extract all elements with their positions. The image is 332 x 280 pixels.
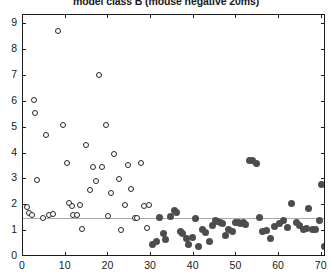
data-point-marker (90, 164, 96, 170)
reference-line (23, 218, 324, 219)
data-point-marker (305, 205, 312, 212)
data-point-marker (111, 151, 117, 157)
data-point-marker (146, 202, 152, 208)
data-point-marker (116, 176, 122, 182)
y-axis-tick-right (321, 101, 325, 102)
data-point-marker (162, 236, 169, 243)
data-point-marker (189, 234, 196, 241)
data-point-marker (83, 142, 89, 148)
x-axis-tick (65, 252, 66, 256)
data-point-marker (222, 232, 229, 239)
data-point-marker (69, 203, 75, 209)
y-axis-tick-right (321, 204, 325, 205)
y-axis-tick (22, 101, 26, 102)
y-axis-tick (22, 153, 26, 154)
x-axis-tick-label: 20 (92, 259, 122, 271)
data-point-marker (318, 181, 325, 188)
x-axis-tick-label: 10 (50, 259, 80, 271)
scatter-chart-figure: model class B (mouse negative 20ms) 0102… (0, 0, 332, 280)
data-point-marker (43, 132, 49, 138)
y-axis-tick-label: 3 (1, 171, 17, 183)
y-axis-tick (22, 23, 26, 24)
data-point-marker (87, 187, 93, 193)
data-point-marker (206, 238, 213, 245)
x-axis-tick (193, 252, 194, 256)
data-point-marker (267, 235, 274, 242)
data-point-marker (284, 224, 291, 231)
data-point-marker (256, 214, 263, 221)
data-point-marker (253, 160, 260, 167)
y-axis-tick (22, 230, 26, 231)
x-axis-tick-top (65, 14, 66, 18)
x-axis-tick (235, 252, 236, 256)
x-axis-tick-top (235, 14, 236, 18)
y-axis-tick-right (321, 49, 325, 50)
x-axis-tick (150, 252, 151, 256)
data-point-marker (108, 190, 114, 196)
x-axis-tick-top (193, 14, 194, 18)
y-axis-tick-label: 9 (1, 16, 17, 28)
y-axis-tick-right (321, 127, 325, 128)
x-axis-tick-top (107, 14, 108, 18)
x-axis-tick-top (150, 14, 151, 18)
data-point-marker (99, 164, 105, 170)
y-axis-tick-label: 7 (1, 68, 17, 80)
data-point-marker (185, 241, 192, 248)
data-point-marker (138, 160, 144, 166)
data-point-marker (125, 162, 131, 168)
data-point-marker (79, 226, 85, 232)
x-axis-tick (278, 252, 279, 256)
data-point-marker (96, 72, 102, 78)
y-axis-tick-right (321, 153, 325, 154)
y-axis-tick-label: 0 (1, 249, 17, 261)
y-axis-tick (22, 49, 26, 50)
data-point-marker (156, 214, 163, 221)
x-axis-tick (107, 252, 108, 256)
x-axis-tick-label: 70 (306, 259, 332, 271)
y-axis-tick (22, 75, 26, 76)
x-axis-tick-label: 60 (263, 259, 293, 271)
data-point-marker (312, 226, 319, 233)
y-axis-tick-label: 1 (1, 223, 17, 235)
y-axis-tick (22, 204, 26, 205)
y-axis-tick-label: 5 (1, 120, 17, 132)
data-point-marker (144, 225, 150, 231)
x-axis-tick-label: 40 (178, 259, 208, 271)
data-point-marker (40, 215, 46, 221)
x-axis-tick-label: 30 (135, 259, 165, 271)
data-point-marker (153, 238, 160, 245)
data-point-marker (321, 243, 325, 250)
x-axis-tick-label: 50 (220, 259, 250, 271)
data-point-marker (64, 160, 70, 166)
data-point-marker (93, 178, 99, 184)
data-point-marker (32, 110, 38, 116)
data-point-marker (122, 202, 128, 208)
data-point-marker (118, 227, 124, 233)
y-axis-tick-label: 6 (1, 94, 17, 106)
y-axis-tick-label: 8 (1, 42, 17, 54)
data-point-marker (316, 217, 323, 224)
data-point-marker (128, 186, 134, 192)
y-axis-tick-label: 4 (1, 146, 17, 158)
y-axis-tick-label: 2 (1, 197, 17, 209)
y-axis-tick (22, 127, 26, 128)
data-point-marker (202, 229, 209, 236)
y-axis-tick (22, 178, 26, 179)
data-point-marker (195, 243, 202, 250)
x-axis-tick-top (321, 14, 322, 18)
data-point-marker (173, 209, 180, 216)
data-point-marker (31, 97, 37, 103)
data-point-marker (34, 177, 40, 183)
data-point-marker (192, 215, 199, 222)
data-point-marker (50, 211, 56, 217)
data-point-marker (280, 217, 287, 224)
y-axis-tick-right (321, 23, 325, 24)
data-point-marker (263, 227, 270, 234)
data-point-marker (229, 228, 236, 235)
data-point-marker (55, 28, 61, 34)
data-point-marker (74, 212, 80, 218)
y-axis-tick-right (321, 230, 325, 231)
data-point-marker (134, 215, 140, 221)
chart-title: model class B (mouse negative 20ms) (0, 0, 332, 7)
data-point-marker (103, 122, 109, 128)
